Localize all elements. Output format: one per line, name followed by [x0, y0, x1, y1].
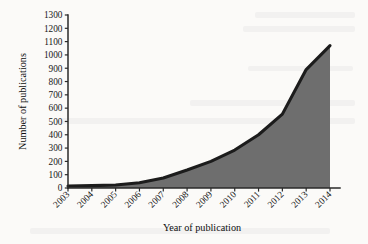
x-tick-label: 2006	[123, 189, 143, 209]
y-tick-label: 1300	[44, 10, 63, 20]
y-axis-title: Number of publications	[17, 53, 28, 150]
x-tick-label: 2004	[75, 189, 95, 209]
plot-area: 0100200300400500600700800900100011001200…	[17, 10, 340, 233]
publications-area-chart: 0100200300400500600700800900100011001200…	[0, 0, 368, 244]
y-tick-label: 900	[49, 64, 63, 74]
x-axis-title: Year of publication	[163, 222, 241, 233]
y-tick-label: 1200	[44, 24, 63, 34]
y-tick-label: 800	[49, 77, 63, 87]
x-tick-label: 2012	[266, 189, 286, 209]
x-tick-label: 2009	[194, 189, 214, 209]
y-tick-label: 600	[49, 103, 63, 113]
x-tick-label: 2003	[51, 189, 71, 209]
chart-page: 0100200300400500600700800900100011001200…	[0, 0, 368, 244]
x-tick-label: 2010	[218, 189, 238, 209]
y-tick-label: 700	[49, 90, 63, 100]
y-tick-label: 300	[49, 143, 63, 153]
y-tick-label: 1100	[44, 37, 63, 47]
x-tick-label: 2014	[313, 189, 333, 209]
x-tick-label: 2013	[289, 189, 309, 209]
x-tick-label: 2007	[146, 189, 166, 209]
y-tick-label: 200	[49, 157, 63, 167]
x-tick-label: 2011	[242, 189, 262, 209]
y-tick-label: 100	[49, 170, 63, 180]
x-tick-label: 2005	[99, 189, 119, 209]
x-tick-label: 2008	[170, 189, 190, 209]
y-tick-label: 1000	[44, 50, 63, 60]
y-tick-label: 500	[49, 117, 63, 127]
y-tick-label: 400	[49, 130, 63, 140]
